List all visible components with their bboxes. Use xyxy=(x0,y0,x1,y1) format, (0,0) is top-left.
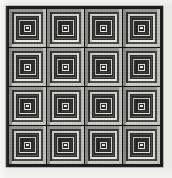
log-strip-right xyxy=(33,139,34,151)
block-center-square xyxy=(102,144,104,146)
log-strip-bottom xyxy=(47,161,84,164)
log-strip-right xyxy=(147,139,148,151)
log-strip-bottom xyxy=(93,77,114,79)
log-strip-top xyxy=(95,137,111,138)
log-strip-bottom xyxy=(95,152,111,153)
log-strip-top xyxy=(57,98,73,99)
log-strip-right xyxy=(115,53,117,80)
log-strip-bottom xyxy=(57,152,73,153)
log-strip-top xyxy=(57,59,73,60)
log-strip-left xyxy=(131,56,132,78)
log-strip-right xyxy=(109,139,110,151)
log-strip-bottom xyxy=(133,113,149,114)
log-strip-top xyxy=(90,92,117,94)
log-strip-right xyxy=(79,90,81,123)
log-strip-right xyxy=(73,59,74,76)
log-strip-right xyxy=(149,137,150,154)
log-strip-left xyxy=(57,137,58,154)
log-strip-bottom xyxy=(95,113,111,114)
log-strip-left xyxy=(52,92,54,119)
log-strip-bottom xyxy=(98,111,110,112)
log-strip-bottom xyxy=(133,152,149,153)
log-strip-right xyxy=(113,134,114,156)
log-strip-bottom xyxy=(93,38,114,40)
log-strip-right xyxy=(111,59,112,76)
log-strip-right xyxy=(77,14,79,41)
log-strip-bottom xyxy=(95,74,111,75)
log-strip-left xyxy=(98,139,99,151)
log-strip-left xyxy=(95,59,96,76)
log-strip-top xyxy=(98,100,110,101)
log-strip-left xyxy=(55,56,56,78)
quilt-block-r1-c1 xyxy=(9,9,46,47)
log-strip-right xyxy=(37,17,38,39)
log-strip-bottom xyxy=(9,44,46,47)
log-strip-top xyxy=(60,139,72,140)
log-strip-right xyxy=(151,134,152,156)
log-strip-bottom xyxy=(55,77,76,79)
log-strip-left xyxy=(19,59,20,76)
log-strip-left xyxy=(14,131,16,158)
log-strip-right xyxy=(149,20,150,37)
log-strip-left xyxy=(17,17,18,39)
quilt-block-r1-c3 xyxy=(85,9,122,47)
log-strip-left xyxy=(95,137,96,154)
log-strip-bottom xyxy=(55,38,76,40)
log-strip-right xyxy=(119,9,122,47)
log-strip-bottom xyxy=(85,83,122,86)
log-strip-left xyxy=(55,134,56,156)
log-strip-right xyxy=(75,17,76,39)
log-strip-right xyxy=(147,100,148,112)
log-strip-left xyxy=(57,98,58,115)
log-strip-right xyxy=(37,95,38,117)
log-strip-left xyxy=(93,17,94,39)
log-strip-right xyxy=(115,14,117,41)
block-center-square xyxy=(102,105,104,107)
log-strip-bottom xyxy=(123,161,160,164)
log-strip-right xyxy=(41,90,43,123)
log-strip-left xyxy=(95,98,96,115)
log-strip-top xyxy=(17,17,38,19)
log-strip-bottom xyxy=(47,122,84,125)
log-strip-bottom xyxy=(14,79,41,81)
log-strip-bottom xyxy=(131,155,152,157)
log-strip-top xyxy=(128,53,155,55)
log-strip-bottom xyxy=(17,77,38,79)
log-strip-top xyxy=(136,100,148,101)
log-strip-bottom xyxy=(17,38,38,40)
log-strip-bottom xyxy=(98,72,110,73)
log-strip-bottom xyxy=(12,120,44,122)
log-strip-bottom xyxy=(128,118,155,120)
log-strip-bottom xyxy=(136,111,148,112)
log-strip-top xyxy=(98,61,110,62)
log-strip-bottom xyxy=(88,81,120,83)
log-strip-bottom xyxy=(128,40,155,42)
log-strip-top xyxy=(133,137,149,138)
log-strip-right xyxy=(35,20,36,37)
log-strip-bottom xyxy=(52,118,79,120)
log-strip-top xyxy=(90,53,117,55)
log-strip-left xyxy=(55,95,56,117)
log-strip-left xyxy=(131,17,132,39)
log-strip-bottom xyxy=(88,120,120,122)
log-strip-bottom xyxy=(9,122,46,125)
log-strip-right xyxy=(117,90,119,123)
quilt-block-r2-c4 xyxy=(123,48,160,86)
log-strip-bottom xyxy=(50,42,82,44)
log-strip-top xyxy=(90,14,117,16)
block-center-square xyxy=(26,66,28,68)
log-strip-right xyxy=(151,17,152,39)
log-strip-bottom xyxy=(19,74,35,75)
log-strip-right xyxy=(157,126,160,164)
log-strip-bottom xyxy=(90,79,117,81)
log-strip-right xyxy=(157,48,160,86)
log-strip-right xyxy=(155,90,157,123)
log-strip-right xyxy=(119,126,122,164)
log-strip-right xyxy=(37,56,38,78)
log-strip-left xyxy=(133,137,134,154)
log-strip-bottom xyxy=(55,155,76,157)
log-strip-right xyxy=(117,12,119,45)
log-strip-bottom xyxy=(9,83,46,86)
block-center-square xyxy=(140,66,142,68)
log-strip-top xyxy=(57,20,73,21)
